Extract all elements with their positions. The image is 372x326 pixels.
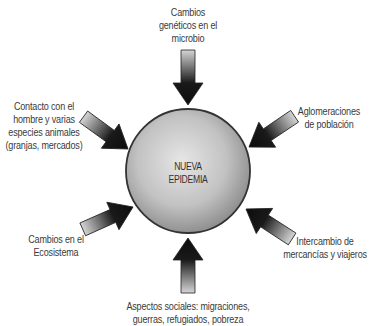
label-line: guerras, refugiados, pobreza (119, 313, 257, 326)
label-line: Ecosistema (22, 246, 91, 259)
factor-label-ecosystem-changes: Cambios en el Ecosistema (22, 233, 91, 259)
label-line: Intercambio de (278, 235, 372, 248)
label-line: Contacto con el (1, 100, 87, 113)
arrow-top-icon (173, 50, 203, 105)
arrow-bottom-icon (173, 238, 203, 293)
label-line: hombre y varias (1, 113, 87, 126)
label-line: mercancías y viajeros (278, 248, 372, 261)
label-line: microbio (136, 32, 239, 45)
center-label-line1: NUEVA (145, 160, 231, 173)
label-line: Aspectos sociales: migraciones, (119, 300, 257, 313)
center-label-line2: EPIDEMIA (145, 173, 231, 186)
factor-label-animal-contact: Contacto con el hombre y varias especies… (1, 100, 87, 152)
label-line: Aglomeraciones (290, 105, 367, 118)
factor-label-genetic-changes: Cambios genéticos en el microbio (136, 6, 239, 45)
label-line: especies animales (1, 126, 87, 139)
factor-label-social-aspects: Aspectos sociales: migraciones, guerras,… (119, 300, 257, 326)
center-label: NUEVA EPIDEMIA (145, 160, 231, 186)
label-line: Cambios en el (22, 233, 91, 246)
label-line: genéticos en el (136, 19, 239, 32)
label-line: de población (290, 118, 367, 131)
label-line: Cambios (136, 6, 239, 19)
factor-label-population-crowding: Aglomeraciones de población (290, 105, 367, 131)
factor-label-goods-travelers: Intercambio de mercancías y viajeros (278, 235, 372, 261)
label-line: (granjas, mercados) (1, 139, 87, 152)
